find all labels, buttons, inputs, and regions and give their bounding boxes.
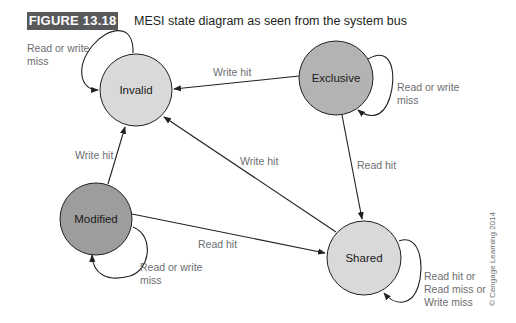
label-shared-to-invalid: Write hit (240, 155, 278, 167)
state-modified: Modified (60, 183, 132, 255)
label-invalid-loop-line2: miss (27, 55, 49, 67)
edge-shared-to-invalid (164, 117, 336, 232)
state-exclusive-label: Exclusive (312, 72, 361, 84)
label-modified-loop-line1: Read or write (140, 261, 203, 273)
state-invalid-label: Invalid (119, 84, 152, 96)
state-exclusive: Exclusive (299, 41, 373, 115)
label-modified-to-shared: Read hit (198, 238, 237, 250)
label-exclusive-to-invalid: Write hit (213, 66, 251, 78)
label-exclusive-loop-line1: Read or write (397, 81, 460, 93)
label-shared-loop-line3: Write miss (424, 296, 473, 308)
state-invalid: Invalid (100, 54, 172, 126)
label-exclusive-to-shared: Read hit (357, 159, 396, 171)
copyright-credit: © Cengage Learning 2014 (488, 211, 497, 306)
mesi-state-diagram: Invalid Exclusive Modified Shared Read o… (0, 0, 516, 323)
state-shared-label: Shared (345, 252, 382, 264)
state-modified-label: Modified (74, 213, 117, 225)
state-shared: Shared (327, 221, 401, 295)
label-invalid-loop-line1: Read or write (27, 42, 90, 54)
label-exclusive-loop-line2: miss (397, 94, 419, 106)
label-shared-loop-line2: Read miss or (424, 283, 486, 295)
label-shared-loop-line1: Read hit or (424, 270, 476, 282)
label-modified-loop-line2: miss (140, 274, 162, 286)
label-modified-to-invalid: Write hit (75, 149, 113, 161)
